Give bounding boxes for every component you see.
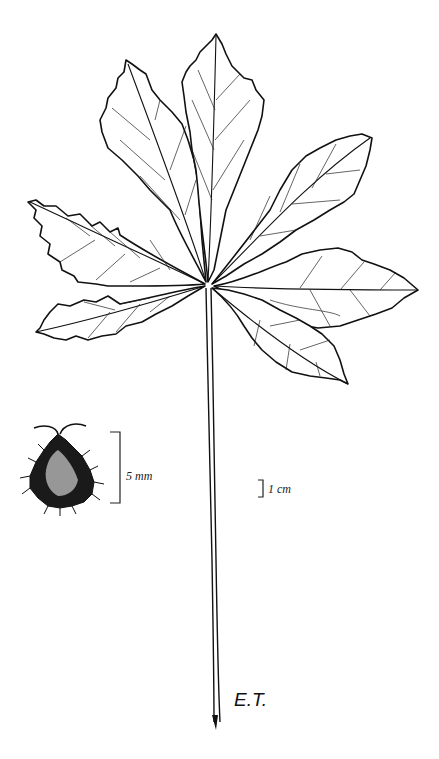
scale-label-1cm: 1 cm — [268, 482, 291, 496]
petiole — [206, 288, 220, 730]
botanical-illustration: 5 mm 1 cm E.T. — [0, 0, 439, 759]
fruit-detail — [20, 424, 104, 516]
artist-initials: E.T. — [234, 689, 267, 710]
scale-bar-1cm: 1 cm — [258, 480, 291, 497]
scale-label-5mm: 5 mm — [126, 469, 153, 483]
scale-bar-5mm: 5 mm — [110, 432, 153, 503]
leaflet-left-lower — [36, 286, 205, 340]
